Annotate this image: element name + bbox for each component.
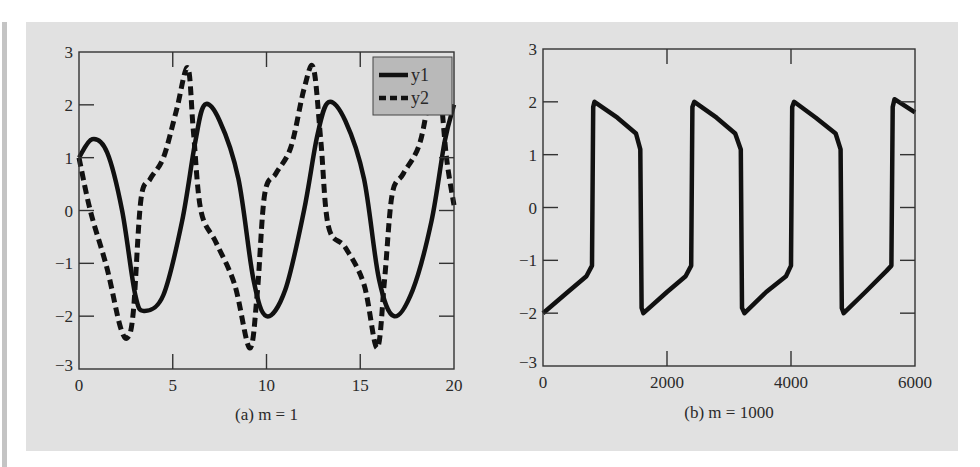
x-tick-label: 2000: [650, 373, 684, 392]
chart-caption: (b) m = 1000: [684, 403, 773, 422]
y-tick-label: 0: [65, 202, 74, 221]
y-tick-label: −1: [55, 254, 73, 273]
x-tick-label: 6000: [898, 373, 932, 392]
chart-caption: (a) m = 1: [235, 405, 298, 424]
legend-label-y1: y1: [411, 65, 429, 85]
chart-a: −3−2−1012305101520(a) m = 1y1y2: [55, 43, 463, 424]
y-tick-label: −1: [519, 251, 537, 270]
y-tick-label: 0: [529, 199, 538, 218]
x-tick-label: 10: [258, 376, 275, 395]
x-tick-label: 15: [352, 376, 369, 395]
y-tick-label: 3: [65, 43, 74, 62]
x-tick-label: 5: [169, 376, 178, 395]
y-tick-label: 2: [65, 96, 74, 115]
x-tick-label: 20: [446, 376, 463, 395]
y-tick-label: 2: [529, 93, 538, 112]
y-tick-label: 1: [529, 146, 538, 165]
x-tick-label: 4000: [774, 373, 808, 392]
x-tick-label: 0: [539, 373, 548, 392]
chart-b: −3−2−101230200040006000(b) m = 1000: [519, 40, 932, 422]
legend-label-y2: y2: [411, 88, 429, 108]
y-tick-label: −2: [55, 307, 73, 326]
legend: y1y2: [373, 57, 452, 115]
x-tick-label: 0: [75, 376, 84, 395]
series-line-y1: [543, 99, 915, 313]
y-tick-label: 3: [529, 40, 538, 59]
y-tick-label: 1: [65, 149, 74, 168]
y-tick-label: −3: [55, 356, 73, 375]
y-tick-label: −2: [519, 304, 537, 323]
y-tick-label: −3: [519, 353, 537, 372]
plot-frame: [543, 49, 915, 366]
figure-canvas: −3−2−1012305101520(a) m = 1y1y2 −3−2−101…: [0, 0, 980, 467]
